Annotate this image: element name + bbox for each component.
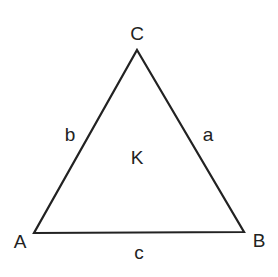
triangle-svg: C A B b a c K	[0, 0, 278, 277]
vertex-label-a: A	[14, 231, 27, 252]
vertex-label-c: C	[130, 23, 144, 44]
side-label-b: b	[65, 124, 76, 145]
side-label-c: c	[134, 242, 144, 263]
area-label-k: K	[131, 147, 144, 168]
vertex-label-b: B	[253, 230, 266, 251]
side-label-a: a	[203, 124, 214, 145]
triangle-diagram: C A B b a c K	[0, 0, 278, 277]
